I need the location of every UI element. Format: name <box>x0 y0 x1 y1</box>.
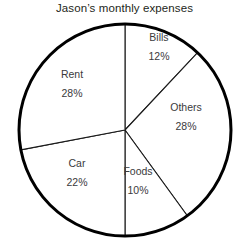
pie-chart-svg <box>0 0 249 248</box>
pie-chart-figure: Jason’s monthly expenses Bills 12% Other… <box>0 0 249 248</box>
pie-slice-rent <box>19 24 125 150</box>
